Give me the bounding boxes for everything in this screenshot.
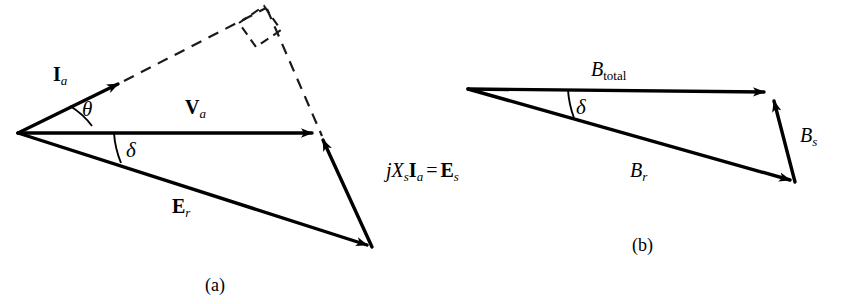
angle-arc-delta bbox=[114, 133, 121, 163]
label-equals: = bbox=[423, 159, 440, 181]
label-ia: Ia bbox=[53, 64, 67, 87]
caption-panel-a: (a) bbox=[205, 276, 225, 294]
label-btotal: Btotal bbox=[591, 59, 626, 82]
label-i-bold: I bbox=[409, 159, 417, 181]
vector-ia bbox=[18, 84, 118, 133]
vector-jxsia-es bbox=[323, 140, 372, 247]
label-va-base: V bbox=[185, 96, 199, 118]
label-angle-delta-a: δ bbox=[126, 140, 136, 161]
label-br: Br bbox=[630, 160, 647, 183]
label-btotal-sub: total bbox=[603, 68, 626, 83]
label-btotal-base: B bbox=[591, 58, 603, 80]
label-angle-theta: θ bbox=[82, 99, 92, 120]
label-br-sub: r bbox=[642, 169, 647, 184]
vector-er bbox=[18, 133, 367, 245]
angle-arc-delta-b bbox=[568, 90, 574, 118]
label-ia-base: I bbox=[53, 63, 61, 85]
figure-canvas: Ia Va Er θ δ jXsIa=Es (a) Btotal Br Bs δ… bbox=[0, 0, 841, 304]
label-bs-base: B bbox=[800, 124, 812, 146]
caption-panel-b: (b) bbox=[632, 236, 653, 254]
label-bs: Bs bbox=[800, 125, 817, 148]
label-bs-sub: s bbox=[812, 134, 817, 149]
label-angle-delta-b: δ bbox=[576, 97, 586, 118]
vector-btotal bbox=[468, 89, 764, 92]
label-er-sub: r bbox=[185, 205, 190, 220]
label-ia-sub: a bbox=[61, 73, 68, 88]
label-er-base: E bbox=[172, 195, 185, 217]
label-jxsia-equals-es: jXsIa=Es bbox=[386, 160, 459, 183]
label-va-sub: a bbox=[199, 106, 206, 121]
dashed-perpendicular-drop bbox=[267, 9, 322, 136]
panel-a-vectors bbox=[18, 6, 372, 247]
label-er: Er bbox=[172, 196, 190, 219]
label-va: Va bbox=[185, 97, 206, 120]
vector-br bbox=[468, 89, 790, 180]
label-e-sub: s bbox=[454, 169, 459, 184]
vector-bs bbox=[774, 101, 795, 182]
label-x: X bbox=[392, 159, 404, 181]
label-e-bold: E bbox=[440, 159, 453, 181]
label-br-base: B bbox=[630, 159, 642, 181]
